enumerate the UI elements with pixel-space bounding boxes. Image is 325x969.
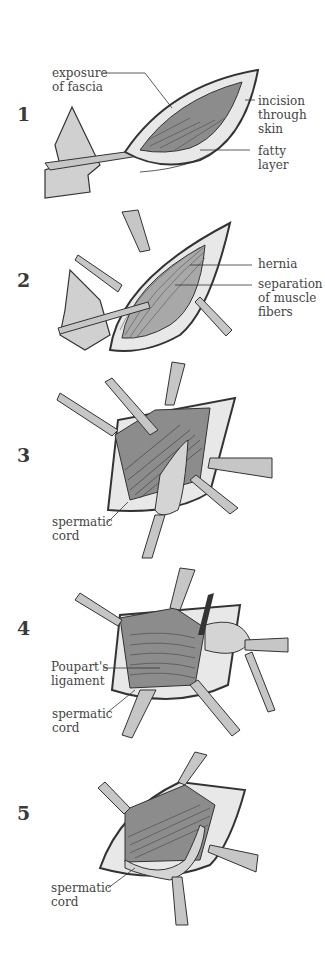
step-3-illustration <box>0 360 325 560</box>
step-number: 2 <box>17 269 30 291</box>
step-1-panel: 1 exposure of fascia incision through sk… <box>0 0 325 200</box>
label-pouparts-ligament: Poupart's ligament <box>51 660 108 688</box>
label-incision-through-skin: incision through skin <box>258 94 307 136</box>
label-separation-of-muscle-fibers: separation of muscle fibers <box>258 277 323 319</box>
label-fatty-layer: fatty layer <box>258 144 289 172</box>
step-number: 4 <box>17 617 30 639</box>
step-4-panel: 4 Poupart's ligament spermatic cord <box>0 560 325 760</box>
label-spermatic-cord: spermatic cord <box>52 707 113 735</box>
label-exposure-of-fascia: exposure of fascia <box>52 66 108 94</box>
label-spermatic-cord: spermatic cord <box>52 515 113 543</box>
step-5-panel: 5 spermatic cord <box>0 750 325 969</box>
step-2-panel: 2 hernia separation of muscle fibers <box>0 190 325 370</box>
step-number: 5 <box>17 802 30 824</box>
step-4-illustration <box>0 560 325 760</box>
label-hernia: hernia <box>258 257 297 271</box>
step-3-panel: 3 spermatic cord <box>0 360 325 560</box>
step-number: 3 <box>17 444 30 466</box>
label-spermatic-cord: spermatic cord <box>51 881 112 909</box>
step-5-illustration <box>0 750 325 969</box>
step-number: 1 <box>17 103 30 125</box>
